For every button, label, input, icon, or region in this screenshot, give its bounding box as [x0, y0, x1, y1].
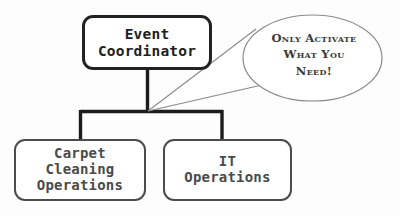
callout-label: Only Activate What You Need!	[258, 30, 370, 79]
node-event-coordinator[interactable]: Event Coordinator	[82, 15, 212, 70]
node-carpet-cleaning-operations[interactable]: Carpet Cleaning Operations	[14, 139, 146, 201]
diagram-canvas: Event Coordinator Carpet Cleaning Operat…	[0, 0, 400, 216]
node-it-operations[interactable]: IT Operations	[163, 139, 292, 201]
